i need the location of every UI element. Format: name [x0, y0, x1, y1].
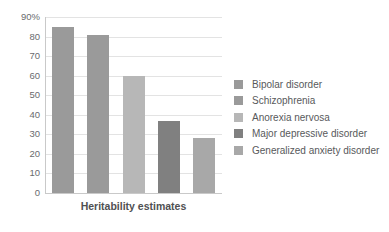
legend-label: Bipolar disorder [252, 79, 322, 90]
x-axis-title: Heritability estimates [45, 200, 222, 212]
bar [193, 138, 215, 193]
y-axis-tick-label: 40 [0, 110, 40, 120]
legend-swatch-icon [234, 80, 243, 89]
legend-label: Major depressive disorder [252, 128, 367, 139]
y-axis-tick-label: 60 [0, 71, 40, 81]
legend-label: Generalized anxiety disorder [252, 145, 379, 156]
bar [123, 76, 145, 193]
y-axis-tick-label: 70 [0, 51, 40, 61]
legend-label: Schizophrenia [252, 95, 315, 106]
legend-label: Anorexia nervosa [252, 112, 330, 123]
y-axis-tick-label: 20 [0, 149, 40, 159]
legend-item: Anorexia nervosa [234, 109, 379, 126]
legend-swatch-icon [234, 113, 243, 122]
y-axis-tick-label: 0 [0, 188, 40, 198]
y-axis-tick-label: 50 [0, 90, 40, 100]
chart-legend: Bipolar disorderSchizophreniaAnorexia ne… [234, 76, 379, 159]
legend-item: Schizophrenia [234, 93, 379, 110]
gridline [45, 193, 222, 194]
y-axis-tick-label: 10 [0, 168, 40, 178]
bar [52, 27, 74, 193]
y-axis-tick-label: 90% [0, 12, 40, 22]
legend-swatch-icon [234, 146, 243, 155]
y-axis-tick-label: 80 [0, 32, 40, 42]
bar [87, 35, 109, 193]
legend-swatch-icon [234, 129, 243, 138]
plot-area [45, 17, 222, 193]
bars-layer [45, 17, 222, 193]
heritability-bar-chart: 90%80706050403020100 Heritability estima… [0, 0, 389, 232]
legend-item: Major depressive disorder [234, 126, 379, 143]
bar [158, 121, 180, 193]
y-axis-tick-label: 30 [0, 129, 40, 139]
legend-item: Bipolar disorder [234, 76, 379, 93]
legend-item: Generalized anxiety disorder [234, 142, 379, 159]
legend-swatch-icon [234, 96, 243, 105]
